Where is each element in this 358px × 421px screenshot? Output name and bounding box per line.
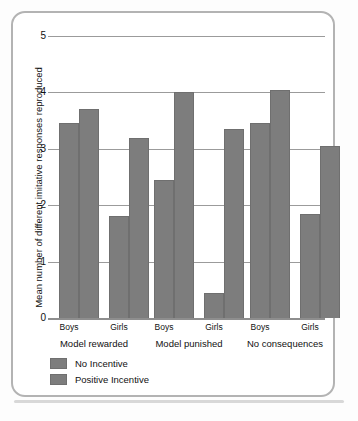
x-sublabel-5: Girls: [290, 322, 330, 332]
bar-group-container: [48, 36, 325, 318]
bar-model-punished-girls-no-incentive: [204, 293, 224, 318]
legend-item-positive-incentive: Positive Incentive: [50, 374, 149, 385]
bar-model-punished-boys-positive-incentive: [174, 92, 194, 318]
bar-no-consequences-girls-positive-incentive: [320, 146, 340, 318]
x-sublabel-2: Boys: [144, 322, 184, 332]
bar-model-punished-girls-positive-incentive: [224, 129, 244, 318]
bar-model-rewarded-girls-positive-incentive: [129, 138, 149, 318]
legend-swatch-no-incentive: [50, 358, 67, 369]
x-sublabel-4: Boys: [240, 322, 280, 332]
x-grouplabel-no-consequences: No consequences: [230, 338, 340, 349]
legend-swatch-positive-incentive: [50, 374, 67, 385]
bar-model-rewarded-boys-no-incentive: [59, 123, 79, 318]
legend-item-no-incentive: No Incentive: [50, 358, 149, 369]
x-axis-baseline: [48, 318, 325, 320]
figure-container: Mean number of different imitative respo…: [0, 0, 358, 421]
bar-model-rewarded-girls-no-incentive: [109, 216, 129, 318]
x-grouplabel-model-rewarded: Model rewarded: [39, 338, 149, 349]
y-tick-2: 2: [26, 200, 46, 210]
y-tick-3: 3: [26, 144, 46, 154]
y-axis-tick-labels: 5 4 3 2 1 0: [26, 36, 46, 318]
legend-label-no-incentive: No Incentive: [75, 358, 128, 369]
frame-shadow: [14, 400, 344, 403]
y-tick-4: 4: [26, 87, 46, 97]
bar-no-consequences-girls-no-incentive: [300, 214, 320, 318]
y-tick-1: 1: [26, 257, 46, 267]
x-sublabel-3: Girls: [194, 322, 234, 332]
bar-no-consequences-boys-positive-incentive: [270, 90, 290, 318]
legend-label-positive-incentive: Positive Incentive: [75, 374, 149, 385]
y-tick-0: 0: [26, 313, 46, 323]
bar-model-punished-boys-no-incentive: [154, 180, 174, 318]
y-tick-5: 5: [26, 31, 46, 41]
bar-model-rewarded-boys-positive-incentive: [79, 109, 99, 318]
chart-legend: No Incentive Positive Incentive: [50, 358, 149, 390]
x-grouplabel-model-punished: Model punished: [134, 338, 244, 349]
x-sublabel-1: Girls: [99, 322, 139, 332]
bar-no-consequences-boys-no-incentive: [250, 123, 270, 318]
x-sublabel-0: Boys: [49, 322, 89, 332]
